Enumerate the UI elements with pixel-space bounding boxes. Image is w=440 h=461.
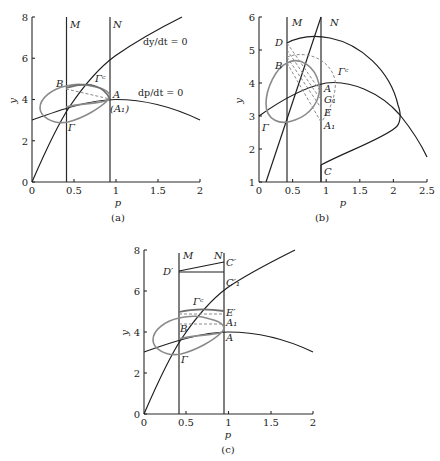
svg-text:C: C	[324, 166, 332, 177]
figure: 0 2 4 6 8 0 0.5 1 1.5 2 p y (a) M N dy/d…	[0, 0, 440, 461]
svg-text:4: 4	[22, 94, 28, 105]
svg-text:dp/dt = 0: dp/dt = 0	[138, 87, 183, 98]
svg-text:B: B	[179, 323, 187, 334]
svg-text:E: E	[323, 107, 332, 118]
orbit-gamma-c	[66, 85, 110, 99]
y-axis-label: y	[7, 98, 18, 105]
caption-a: (a)	[111, 212, 125, 223]
svg-text:2: 2	[310, 417, 316, 428]
svg-text:A: A	[112, 89, 120, 100]
svg-text:C′₁: C′₁	[226, 277, 240, 288]
svg-text:D: D	[274, 37, 283, 48]
svg-text:2: 2	[249, 144, 255, 155]
caption-c: (c)	[221, 444, 235, 455]
svg-text:0: 0	[141, 417, 147, 428]
svg-text:Γ: Γ	[180, 354, 189, 365]
x-axis-label: p	[225, 429, 232, 440]
svg-text:0: 0	[256, 185, 262, 196]
svg-text:D′: D′	[162, 266, 174, 277]
svg-text:6: 6	[249, 12, 255, 23]
orbit-gamma	[153, 316, 224, 354]
svg-text:6: 6	[22, 53, 28, 64]
x-axis-label: p	[340, 197, 347, 208]
y-ticks: 1 2 3 4 5 6	[249, 12, 262, 188]
svg-text:M: M	[182, 250, 194, 261]
y-axis-label: y	[119, 330, 130, 337]
svg-text:1: 1	[249, 177, 255, 188]
svg-text:G₁: G₁	[324, 94, 336, 105]
svg-text:N: N	[112, 19, 123, 30]
svg-text:1.5: 1.5	[263, 417, 279, 428]
y-ticks: 0 2 4 6 8	[134, 245, 147, 420]
svg-text:1.5: 1.5	[352, 185, 368, 196]
panel-a: 0 2 4 6 8 0 0.5 1 1.5 2 p y (a) M N dy/d…	[7, 12, 203, 223]
svg-text:0.5: 0.5	[178, 417, 194, 428]
svg-text:Γ: Γ	[261, 122, 270, 133]
svg-text:1: 1	[323, 185, 329, 196]
svg-text:Γᶜ: Γᶜ	[192, 296, 204, 307]
x-axis-label: p	[115, 197, 122, 208]
svg-text:2: 2	[134, 368, 140, 379]
svg-text:A₁: A₁	[323, 120, 335, 131]
svg-text:B: B	[274, 60, 282, 71]
svg-text:4: 4	[134, 327, 140, 338]
panel-b: 1 2 3 4 5 6 0 0.5 1 1.5 2 2.5 p y (b) M …	[233, 12, 435, 223]
svg-text:N: N	[213, 250, 224, 261]
svg-text:1.5: 1.5	[150, 185, 166, 196]
svg-text:(A₁): (A₁)	[110, 103, 129, 114]
svg-text:2: 2	[22, 136, 28, 147]
y-ticks: 0 2 4 6 8	[22, 12, 35, 188]
caption-b: (b)	[315, 212, 329, 223]
svg-text:A₁: A₁	[225, 317, 237, 328]
svg-text:1: 1	[113, 185, 119, 196]
svg-text:B: B	[55, 78, 63, 89]
svg-text:Γᶜ: Γᶜ	[94, 73, 106, 84]
svg-text:dy/dt = 0: dy/dt = 0	[143, 36, 188, 47]
svg-text:0.5: 0.5	[66, 185, 82, 196]
svg-text:A: A	[323, 83, 331, 94]
svg-text:M: M	[69, 19, 81, 30]
svg-text:2: 2	[390, 185, 396, 196]
y-axis-label: y	[233, 98, 244, 105]
svg-text:6: 6	[134, 286, 140, 297]
svg-text:8: 8	[22, 12, 28, 23]
svg-text:8: 8	[134, 245, 140, 256]
svg-text:Γ: Γ	[67, 122, 76, 133]
svg-text:5: 5	[249, 45, 255, 56]
svg-text:0: 0	[29, 185, 35, 196]
svg-text:0: 0	[22, 177, 28, 188]
svg-text:1: 1	[225, 417, 231, 428]
svg-text:N: N	[329, 17, 340, 28]
svg-text:2: 2	[197, 185, 203, 196]
svg-text:2.5: 2.5	[419, 185, 435, 196]
svg-text:M: M	[291, 17, 303, 28]
svg-text:Γᶜ: Γᶜ	[337, 66, 349, 77]
trajectory-D-C	[287, 36, 400, 165]
svg-text:C′: C′	[226, 257, 237, 268]
svg-text:4: 4	[249, 78, 255, 89]
orbit-gamma	[40, 84, 110, 122]
svg-text:0: 0	[134, 409, 140, 420]
svg-text:0.5: 0.5	[285, 185, 301, 196]
panel-c: 0 2 4 6 8 0 0.5 1 1.5 2 p y (c) M N C′ D…	[119, 245, 316, 455]
svg-text:A: A	[225, 332, 233, 343]
nullcline-dp	[259, 83, 427, 157]
svg-text:3: 3	[249, 111, 255, 122]
